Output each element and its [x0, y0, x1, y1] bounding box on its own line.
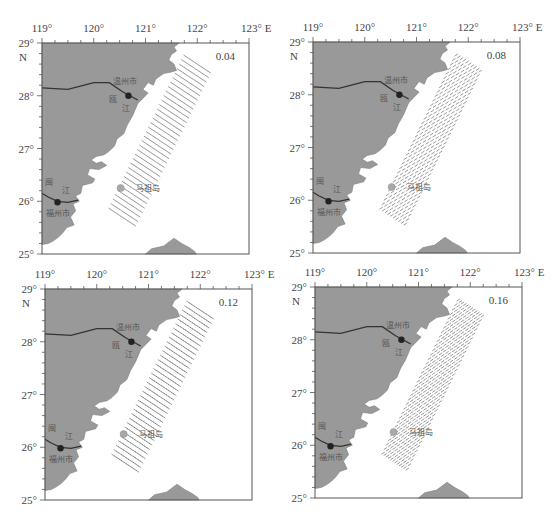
x-tick-label: 123° E: [514, 266, 545, 278]
y-tick-label: 26°: [292, 439, 307, 451]
y-tick-label: 27°: [292, 387, 307, 399]
min-river-label: 江: [335, 430, 343, 439]
x-tick-label: 123° E: [244, 268, 275, 280]
panel-value-label: 0.12: [219, 296, 238, 308]
fuzhou-city-label: 福州市: [317, 207, 341, 217]
fuzhou-city-label: 福州市: [49, 454, 73, 464]
north-hemisphere-label: N: [22, 297, 30, 309]
x-tick-label: 122°: [190, 268, 211, 280]
x-tick-label: 121°: [138, 268, 159, 280]
y-tick-label: 28°: [292, 334, 307, 346]
min-river-label: 闽: [48, 424, 56, 433]
fuzhou-city-dot: [54, 199, 60, 205]
y-tick-label: 27°: [22, 389, 37, 401]
x-tick-label: 120°: [86, 268, 107, 280]
wenzhou-city-label: 温州市: [386, 320, 410, 330]
x-tick-label: 119°: [305, 266, 326, 278]
x-tick-label: 119°: [32, 22, 53, 34]
x-tick-label: 120°: [356, 266, 377, 278]
taiwan-land: [149, 484, 200, 500]
y-tick-label: 28°: [19, 90, 34, 102]
matsu-island-dot: [120, 430, 127, 437]
ou-river-label: 瓯: [109, 95, 117, 104]
x-tick-label: 123° E: [512, 21, 543, 33]
y-tick-label: 25°: [22, 494, 37, 506]
matsu-island-dot: [117, 184, 124, 191]
x-tick-label: 120°: [83, 22, 104, 34]
x-tick-label: 122°: [187, 22, 208, 34]
y-tick-label: 27°: [290, 142, 305, 154]
ou-river-label: 瓯: [382, 339, 390, 348]
y-tick-label: 29°: [22, 283, 37, 295]
x-tick-label: 120°: [354, 21, 375, 33]
min-river-label: 江: [333, 185, 341, 194]
north-hemisphere-label: N: [19, 51, 27, 63]
north-hemisphere-label: N: [292, 295, 300, 307]
y-tick-label: 27°: [19, 143, 34, 155]
x-tick-label: 121°: [408, 266, 429, 278]
wenzhou-city-dot: [125, 93, 131, 99]
ou-river-label: 江: [395, 348, 403, 357]
y-tick-label: 26°: [19, 195, 34, 207]
matsu-island-dot: [388, 183, 395, 190]
panel-value-label: 0.04: [216, 50, 236, 62]
map-panel-d: 119°120°121°122°123° E29°28°27°26°25°N0.…: [273, 244, 513, 484]
y-tick-label: 28°: [290, 89, 305, 101]
ou-river-label: 瓯: [112, 341, 120, 350]
matsu-island-dot: [390, 428, 397, 435]
north-hemisphere-label: N: [290, 50, 298, 62]
ou-river-label: 江: [122, 104, 130, 113]
y-tick-label: 29°: [292, 281, 307, 293]
fuzhou-city-dot: [325, 198, 331, 204]
matsu-island-label: 马祖岛: [407, 182, 431, 192]
min-river-label: 江: [65, 432, 73, 441]
x-tick-label: 121°: [135, 22, 156, 34]
wenzhou-city-dot: [398, 337, 404, 343]
x-tick-label: 121°: [406, 21, 427, 33]
wenzhou-city-label: 温州市: [384, 75, 408, 85]
wenzhou-city-dot: [128, 339, 134, 345]
matsu-island-label: 马祖岛: [136, 183, 160, 193]
min-river-label: 闽: [45, 178, 53, 187]
map-panel-c: 119°120°121°122°123° E29°28°27°26°25°N0.…: [3, 246, 243, 486]
panel-value-label: 0.08: [487, 49, 507, 61]
x-tick-label: 119°: [303, 21, 324, 33]
x-tick-label: 123° E: [241, 22, 272, 34]
panel-value-label: 0.16: [489, 294, 509, 306]
wenzhou-city-dot: [396, 92, 402, 98]
y-tick-label: 29°: [290, 36, 305, 48]
map-panel-b: 119°120°121°122°123° E29°28°27°26°25°N0.…: [271, 0, 511, 239]
x-tick-label: 119°: [35, 268, 56, 280]
fuzhou-city-label: 福州市: [319, 452, 343, 462]
ou-river-label: 江: [125, 350, 133, 359]
ou-river-label: 江: [393, 103, 401, 112]
map-panel-a: 119°120°121°122°123° E29°28°27°26°25°N0.…: [0, 0, 240, 240]
min-river-label: 闽: [316, 177, 324, 186]
matsu-island-label: 马祖岛: [139, 429, 163, 439]
wenzhou-city-label: 温州市: [116, 322, 140, 332]
ou-river-label: 瓯: [380, 94, 388, 103]
y-tick-label: 29°: [19, 37, 34, 49]
y-tick-label: 26°: [22, 441, 37, 453]
min-river-label: 闽: [318, 422, 326, 431]
fuzhou-city-dot: [327, 443, 333, 449]
y-tick-label: 28°: [22, 336, 37, 348]
wenzhou-city-label: 温州市: [113, 76, 137, 86]
fuzhou-city-dot: [57, 445, 63, 451]
fuzhou-city-label: 福州市: [46, 208, 70, 218]
y-tick-label: 25°: [292, 492, 307, 504]
x-tick-label: 122°: [460, 266, 481, 278]
min-river-label: 江: [62, 186, 70, 195]
taiwan-land: [419, 482, 470, 498]
x-tick-label: 122°: [458, 21, 479, 33]
y-tick-label: 26°: [290, 194, 305, 206]
matsu-island-label: 马祖岛: [409, 427, 433, 437]
